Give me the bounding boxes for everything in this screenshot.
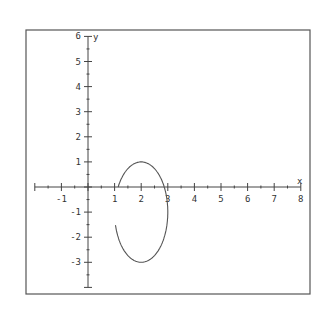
y-tick-label: -1 <box>70 207 81 217</box>
y-tick-label: 2 <box>76 132 81 142</box>
x-tick-label: 1 <box>112 194 117 204</box>
x-tick-label: 8 <box>298 194 303 204</box>
y-tick-label: 4 <box>76 82 81 92</box>
y-axis-label: y <box>93 32 99 42</box>
y-tick-label: -2 <box>70 232 81 242</box>
y-tick-label: 1 <box>76 157 81 167</box>
x-tick-label: 2 <box>138 194 143 204</box>
x-tick-label: 4 <box>192 194 197 204</box>
x-axis-label: x <box>297 176 303 186</box>
y-tick-label: 5 <box>76 57 81 67</box>
chart-canvas: -112345678654321-1-2-3 x y <box>0 0 334 314</box>
x-tick-label: -1 <box>56 194 67 204</box>
y-tick-label: 3 <box>76 107 81 117</box>
x-tick-label: 6 <box>245 194 250 204</box>
x-tick-label: 5 <box>218 194 223 204</box>
y-tick-label: -3 <box>70 257 81 267</box>
x-tick-label: 7 <box>271 194 276 204</box>
plot-frame <box>26 30 310 294</box>
y-tick-label: 6 <box>76 31 81 41</box>
